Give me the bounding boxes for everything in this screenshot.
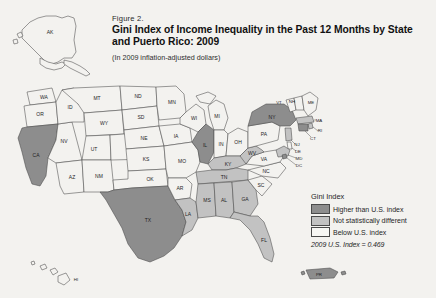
state-label-MA: MA <box>316 118 323 123</box>
map-region-OR: OR <box>24 102 58 127</box>
state-label-TN: TN <box>221 174 228 180</box>
state-label-NC: NC <box>262 168 270 174</box>
legend-item-not-different: Not statistically different <box>311 216 433 226</box>
figure-header: Figure 2. Gini Index of Income Inequalit… <box>112 14 432 62</box>
state-label-MI: MI <box>214 113 220 119</box>
state-label-ID: ID <box>68 104 73 110</box>
state-label-KS: KS <box>143 156 150 162</box>
map-region-ME: ME <box>302 92 318 116</box>
map-region-AZ: AZ <box>56 160 84 194</box>
legend-swatch-higher <box>311 204 330 214</box>
state-label-PR: PR <box>316 272 322 277</box>
legend-item-higher: Higher than U.S. index <box>311 204 433 214</box>
map-region-IN: IN <box>214 130 228 158</box>
state-label-AZ: AZ <box>69 174 75 180</box>
legend-swatch-not-different <box>311 216 330 226</box>
state-label-AR: AR <box>177 185 184 191</box>
state-label-OR: OR <box>36 111 44 117</box>
state-label-DE: DE <box>295 149 301 154</box>
map-region-MA: MA <box>296 116 322 124</box>
legend-reference-note: 2009 U.S. Index = 0.469 <box>311 241 433 248</box>
state-label-ME: ME <box>308 100 315 105</box>
legend-item-below: Below U.S. index <box>311 227 433 237</box>
map-region-WY: WY <box>84 110 124 136</box>
state-label-MO: MO <box>178 158 186 164</box>
map-region-FL: FL <box>230 212 274 262</box>
state-label-TX: TX <box>145 217 152 223</box>
state-label-NV: NV <box>61 138 69 144</box>
state-label-PA: PA <box>261 131 268 137</box>
state-label-IN: IN <box>219 141 224 147</box>
map-region-NE: NE <box>124 126 164 149</box>
state-label-MS: MS <box>203 197 211 203</box>
map-region-MO: MO <box>164 142 200 178</box>
state-label-IL: IL <box>203 142 207 148</box>
map-region-MS: MS <box>196 183 216 218</box>
map-region-AK: AK <box>13 16 90 76</box>
map-region-UT: UT <box>82 135 111 160</box>
map-region-MN: MN <box>156 86 186 120</box>
state-label-WA: WA <box>40 94 49 100</box>
state-label-SC: SC <box>258 182 265 188</box>
state-label-NJ: NJ <box>294 142 299 147</box>
state-label-DC: DC <box>296 163 302 168</box>
map-region-NM: NM <box>82 160 114 192</box>
state-label-IA: IA <box>174 133 179 139</box>
state-label-WV: WV <box>248 150 257 156</box>
legend-label-higher: Higher than U.S. index <box>333 206 403 213</box>
map-region-AL: AL <box>214 182 234 218</box>
map-region-PR: PR <box>301 268 346 279</box>
state-label-NY: NY <box>269 114 277 120</box>
state-label-HI: HI <box>74 277 78 282</box>
legend-swatch-below <box>311 227 330 237</box>
state-label-FL: FL <box>261 237 267 243</box>
map-region-TX: TX <box>100 186 186 262</box>
state-label-VA: VA <box>261 156 268 162</box>
figure-container: AK WA OR CA NV ID MT WY <box>0 0 436 298</box>
figure-subtitle: (In 2009 inflation-adjusted dollars) <box>112 53 432 62</box>
map-region-RI: RI <box>308 123 322 133</box>
legend-label-not-different: Not statistically different <box>333 217 407 224</box>
figure-number: Figure 2. <box>112 14 432 23</box>
map-region-PA: PA <box>248 122 280 148</box>
state-label-LA: LA <box>185 211 192 217</box>
state-label-GA: GA <box>241 196 249 202</box>
legend-title: Gini Index <box>311 192 433 201</box>
state-label-AK: AK <box>47 29 54 35</box>
state-label-OH: OH <box>234 139 242 145</box>
state-label-SD: SD <box>138 114 145 120</box>
state-label-AL: AL <box>221 197 227 203</box>
state-label-NE: NE <box>141 135 149 141</box>
state-label-ND: ND <box>134 93 142 99</box>
state-label-UT: UT <box>91 146 98 152</box>
state-label-KY: KY <box>225 161 232 167</box>
state-label-MN: MN <box>168 99 176 105</box>
state-label-VT: VT <box>276 100 282 105</box>
state-label-MT: MT <box>93 95 100 101</box>
state-label-MD: MD <box>296 156 303 161</box>
state-label-RI: RI <box>318 128 322 133</box>
state-label-NH: NH <box>289 99 295 104</box>
map-region-HI: HI <box>31 261 78 285</box>
map-legend: Gini Index Higher than U.S. index Not st… <box>311 192 433 248</box>
map-region-CT: CT <box>298 124 316 141</box>
map-region-KS: KS <box>126 146 166 171</box>
state-label-WY: WY <box>100 120 109 126</box>
legend-label-below: Below U.S. index <box>333 229 386 236</box>
page-title: Gini Index of Income Inequality in the P… <box>112 24 432 48</box>
state-label-OK: OK <box>146 176 154 182</box>
state-label-CA: CA <box>33 152 41 158</box>
state-label-NM: NM <box>95 173 103 179</box>
state-label-WI: WI <box>191 115 197 121</box>
